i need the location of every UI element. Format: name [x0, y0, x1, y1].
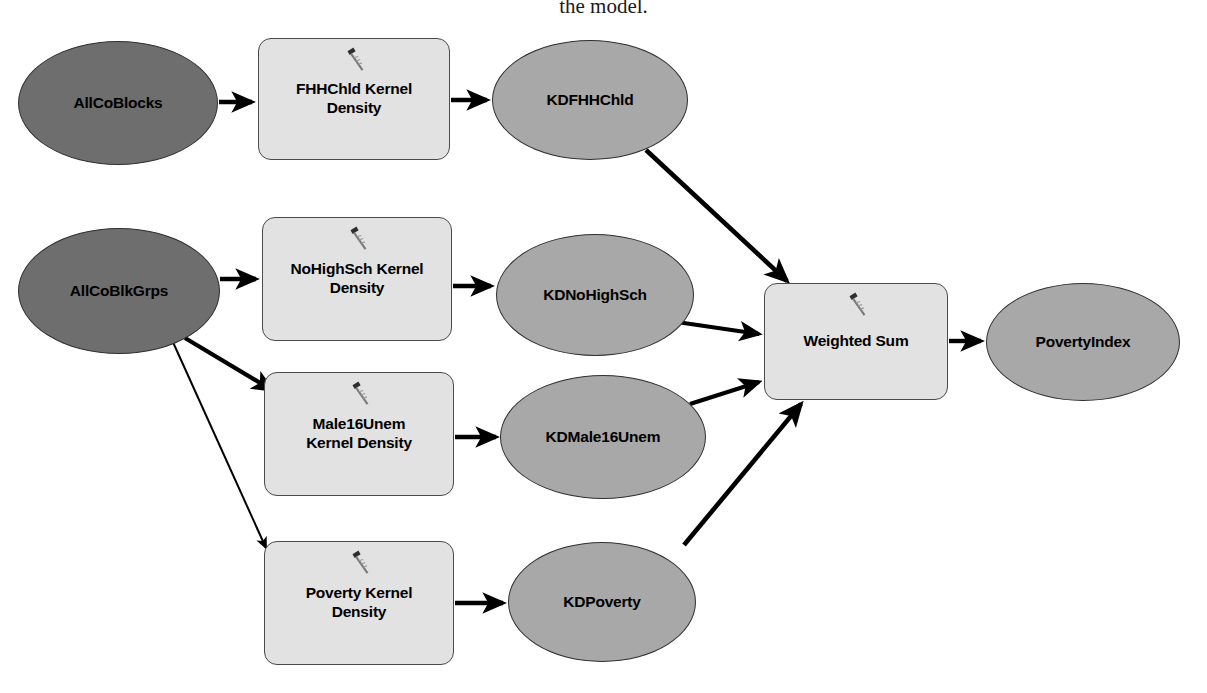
node-label: AllCoBlocks: [67, 94, 168, 113]
node-label: Weighted Sum: [798, 332, 915, 351]
node-weighted-sum[interactable]: Weighted Sum: [764, 283, 948, 400]
node-label: FHHChld Kernel Density: [290, 80, 418, 118]
node-label: Poverty Kernel Density: [300, 584, 419, 622]
hammer-tool-icon: [847, 291, 869, 317]
edge-allcoblkgrps-to-male16unem-kd: [185, 338, 272, 390]
node-label: NoHighSch Kernel Density: [285, 260, 430, 298]
figure-caption: the model.: [0, 0, 1207, 19]
hammer-tool-icon: [348, 225, 370, 251]
node-kdpoverty[interactable]: KDPoverty: [508, 542, 696, 662]
node-allcoblocks[interactable]: AllCoBlocks: [18, 41, 218, 165]
node-nohighsch-kernel-density[interactable]: NoHighSch Kernel Density: [262, 217, 452, 341]
edge-allcoblkgrps-to-poverty-kd: [172, 340, 266, 548]
node-kdfhhchld[interactable]: KDFHHChld: [492, 40, 688, 160]
node-male16unem-kernel-density[interactable]: Male16Unem Kernel Density: [264, 372, 454, 496]
node-label: KDNoHighSch: [537, 286, 653, 305]
node-allcoblkgrps[interactable]: AllCoBlkGrps: [18, 228, 220, 354]
hammer-tool-icon: [350, 380, 372, 406]
hammer-tool-icon: [345, 46, 367, 72]
node-label: AllCoBlkGrps: [64, 282, 174, 301]
node-poverty-kernel-density[interactable]: Poverty Kernel Density: [264, 541, 454, 665]
hammer-tool-icon: [350, 549, 372, 575]
node-label: KDFHHChld: [541, 91, 640, 110]
edge-kdmale16unem-to-weighted-sum: [690, 382, 759, 404]
model-diagram-canvas: the model.: [0, 0, 1207, 693]
node-kdnohighsch[interactable]: KDNoHighSch: [496, 234, 694, 356]
node-label: PovertyIndex: [1030, 333, 1137, 352]
node-kdmale16unem[interactable]: KDMale16Unem: [500, 375, 706, 499]
node-fhhchld-kernel-density[interactable]: FHHChld Kernel Density: [258, 38, 450, 160]
node-label: Male16Unem Kernel Density: [300, 415, 418, 453]
node-label: KDPoverty: [557, 593, 646, 612]
node-label: KDMale16Unem: [540, 428, 667, 447]
edge-kdnohighsch-to-weighted-sum: [677, 322, 759, 334]
node-povertyindex[interactable]: PovertyIndex: [986, 283, 1180, 401]
